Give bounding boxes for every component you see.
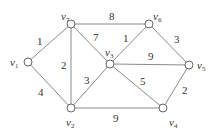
edge-v6-v5	[149, 24, 189, 65]
edge-weight-label: 5	[140, 75, 146, 87]
node-label-v4: v4	[169, 116, 178, 130]
edge-v3-v4	[110, 64, 163, 108]
edge-weight-label: 2	[182, 84, 188, 96]
edge-weight-label: 3	[174, 33, 180, 45]
edge-v3-v6	[110, 24, 149, 64]
edge-weight-label: 9	[148, 50, 154, 62]
node-v5	[185, 61, 193, 69]
node-label-v5: v5	[197, 59, 206, 73]
node-label-v2: v2	[66, 116, 75, 130]
edge-v3-v5	[110, 64, 189, 65]
node-label-v7: v7	[61, 10, 70, 24]
weighted-graph: 142873919532v1v2v3v4v5v6v7	[0, 0, 215, 131]
node-v6	[145, 20, 153, 28]
edge-v1-v7	[28, 24, 71, 62]
edge-weight-label: 2	[61, 59, 67, 71]
node-v1	[24, 58, 32, 66]
edge-weight-label: 3	[84, 74, 90, 86]
edge-weight-label: 1	[37, 35, 43, 47]
edge-weight-label: 8	[109, 10, 115, 22]
node-v2	[67, 104, 75, 112]
node-label-v6: v6	[153, 10, 162, 24]
edge-weight-label: 1	[123, 32, 129, 44]
node-label-v1: v1	[10, 56, 19, 70]
node-label-v3: v3	[105, 46, 114, 60]
node-v3	[106, 60, 114, 68]
node-v4	[159, 104, 167, 112]
edge-weight-label: 9	[113, 112, 119, 124]
edge-weight-label: 7	[93, 31, 99, 43]
edge-v7-v3	[71, 24, 110, 64]
edge-weight-label: 4	[38, 86, 44, 98]
edge-v2-v3	[71, 64, 110, 108]
